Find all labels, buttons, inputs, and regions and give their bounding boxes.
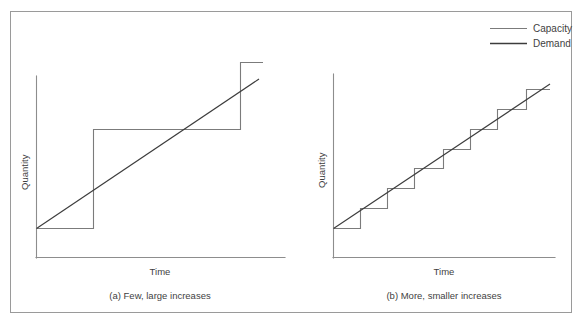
legend-label-demand: Demand (533, 38, 571, 49)
figure-border (11, 12, 572, 313)
figure-container: Capacity Demand Quantity Time (a) Few, l… (0, 0, 582, 325)
panel-b-caption: (b) More, smaller increases (386, 290, 501, 301)
panel-a-y-axis-label: Quantity (19, 154, 30, 190)
panel-b-y-axis-label: Quantity (316, 152, 327, 188)
panel-b-x-axis-label: Time (434, 266, 455, 277)
legend-label-capacity: Capacity (533, 23, 572, 34)
panel-a-caption: (a) Few, large increases (109, 290, 211, 301)
panel-a-x-axis-label: Time (150, 266, 171, 277)
capacity-demand-figure: Capacity Demand Quantity Time (a) Few, l… (0, 0, 582, 325)
